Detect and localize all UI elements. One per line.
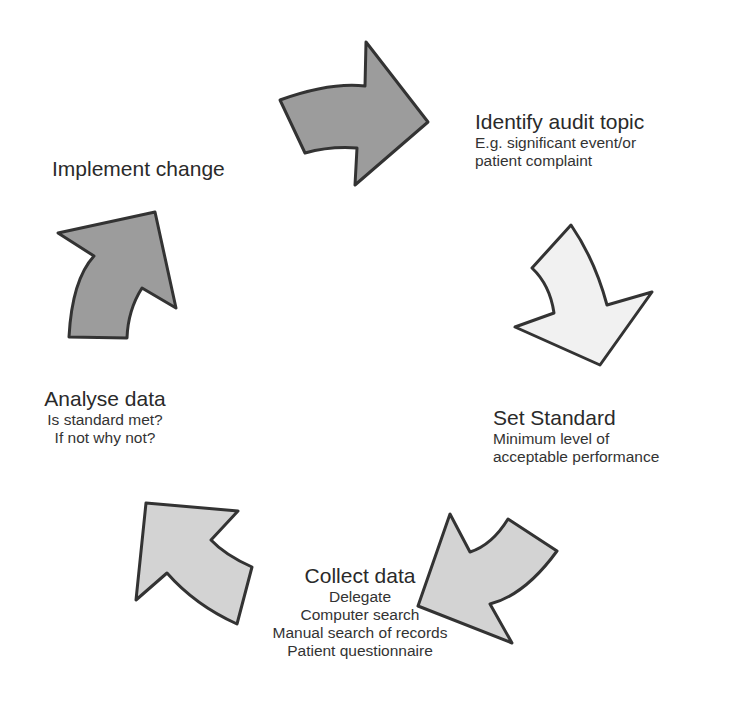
step-standard-line: Minimum level of — [493, 430, 659, 448]
arrow-collect-to-analyse-icon — [136, 503, 252, 624]
step-analyse-title: Analyse data — [20, 387, 190, 411]
step-analyse-line: Is standard met? — [20, 411, 190, 429]
step-identify-title: Identify audit topic — [475, 110, 644, 134]
step-identify: Identify audit topic E.g. significant ev… — [475, 110, 644, 170]
step-collect-line: Computer search — [240, 606, 480, 624]
step-collect-line: Manual search of records — [240, 624, 480, 642]
step-collect-line: Patient questionnaire — [240, 642, 480, 660]
step-analyse: Analyse data Is standard met? If not why… — [20, 387, 190, 447]
arrow-implement-to-identify-icon — [280, 42, 428, 185]
step-collect-title: Collect data — [240, 564, 480, 588]
step-collect: Collect data Delegate Computer search Ma… — [240, 564, 480, 659]
step-implement-title: Implement change — [52, 157, 225, 181]
step-identify-line: patient complaint — [475, 152, 644, 170]
arrow-identify-to-standard-icon — [515, 225, 652, 365]
step-standard-line: acceptable performance — [493, 448, 659, 466]
step-analyse-line: If not why not? — [20, 429, 190, 447]
step-standard-title: Set Standard — [493, 406, 659, 430]
step-collect-line: Delegate — [240, 588, 480, 606]
step-standard: Set Standard Minimum level of acceptable… — [493, 406, 659, 466]
step-identify-line: E.g. significant event/or — [475, 134, 644, 152]
arrow-analyse-to-implement-icon — [58, 212, 176, 338]
step-implement: Implement change — [52, 157, 225, 181]
